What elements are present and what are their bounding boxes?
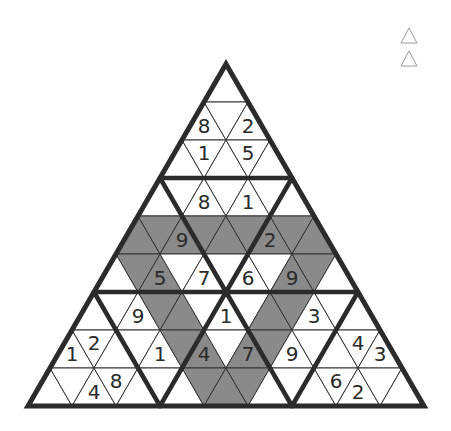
given-digit: 2 bbox=[264, 228, 277, 252]
given-digit: 7 bbox=[198, 266, 211, 290]
given-digit: 9 bbox=[176, 228, 189, 252]
given-digit: 9 bbox=[132, 304, 145, 328]
puzzle-board[interactable]: 821581925769913121479434862 bbox=[0, 0, 451, 431]
given-digit: 1 bbox=[154, 342, 167, 366]
given-digit: 1 bbox=[66, 342, 79, 366]
given-digit: 4 bbox=[198, 342, 211, 366]
given-digit: 1 bbox=[242, 190, 255, 214]
triangle-outline-icon[interactable] bbox=[400, 50, 418, 67]
given-digit: 8 bbox=[198, 114, 211, 138]
given-digit: 3 bbox=[374, 342, 387, 366]
given-digit: 5 bbox=[154, 266, 167, 290]
given-digit: 4 bbox=[88, 380, 101, 404]
given-digit: 2 bbox=[88, 331, 101, 355]
given-digit: 9 bbox=[286, 266, 299, 290]
given-digit: 1 bbox=[198, 141, 211, 165]
given-digit: 8 bbox=[110, 369, 123, 393]
triangle-outline-icon[interactable] bbox=[400, 27, 418, 44]
given-digit: 6 bbox=[330, 369, 343, 393]
given-digit: 5 bbox=[242, 141, 255, 165]
puzzle-cell[interactable] bbox=[204, 64, 248, 102]
given-digit: 8 bbox=[198, 190, 211, 214]
given-digit: 2 bbox=[352, 380, 365, 404]
given-digit: 6 bbox=[242, 266, 255, 290]
given-digit: 1 bbox=[220, 304, 233, 328]
given-digit: 3 bbox=[308, 304, 321, 328]
given-digit: 7 bbox=[242, 342, 255, 366]
given-digit: 2 bbox=[242, 114, 255, 138]
given-digit: 4 bbox=[352, 331, 365, 355]
given-digit: 9 bbox=[286, 342, 299, 366]
